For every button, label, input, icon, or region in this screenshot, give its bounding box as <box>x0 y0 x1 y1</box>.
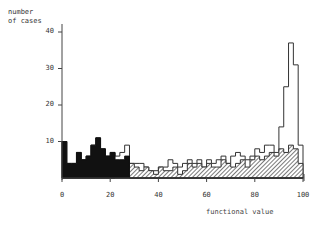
histogram-plot <box>0 0 323 228</box>
